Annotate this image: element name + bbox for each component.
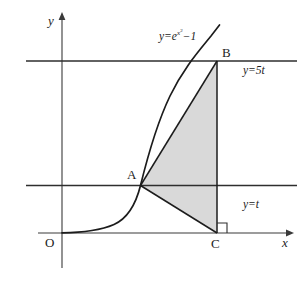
x-axis-label: x (282, 236, 288, 249)
curve-equation-lhs: y=e (159, 30, 177, 42)
point-b-label: B (222, 46, 231, 59)
curve-equation-tail: −1 (183, 30, 197, 42)
y-axis-arrow-icon (59, 12, 66, 20)
right-angle-marker-icon (217, 223, 227, 233)
point-c-label: C (211, 237, 220, 250)
curve-equation-label: y=ex2−1 (159, 28, 196, 43)
origin-label: O (45, 236, 54, 249)
lower-line-label: y=t (243, 199, 259, 211)
point-a-label: A (127, 168, 136, 181)
upper-line-label: y=5t (243, 65, 265, 77)
figure-container: y x O A B C y=ex2−1 y=5t y=t (0, 0, 305, 288)
y-axis-label: y (48, 14, 54, 27)
shaded-region (141, 61, 218, 233)
